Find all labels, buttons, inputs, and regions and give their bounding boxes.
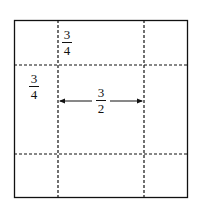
label-top-width: 3 4 [62,28,72,57]
arrowhead-left-icon [59,99,65,104]
denominator: 4 [31,88,38,101]
arrowhead-right-icon [137,99,143,104]
numerator: 3 [64,28,71,41]
label-left-height: 3 4 [29,72,39,101]
label-center-width: 3 2 [96,86,106,115]
denominator: 2 [98,102,105,115]
denominator: 4 [64,44,71,57]
numerator: 3 [98,86,105,99]
numerator: 3 [31,72,38,85]
